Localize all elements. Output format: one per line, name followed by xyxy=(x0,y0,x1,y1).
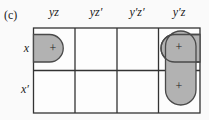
plus-mark-x-yprime-z: + xyxy=(172,40,186,54)
kmap-figure: (c) yz yz′ y′z′ y′z x x′ + + + xyxy=(0,0,209,120)
kmap-diagram xyxy=(0,0,209,120)
plus-mark-x-yz: + xyxy=(46,41,60,55)
plus-mark-xprime-yprime-z: + xyxy=(172,79,186,93)
